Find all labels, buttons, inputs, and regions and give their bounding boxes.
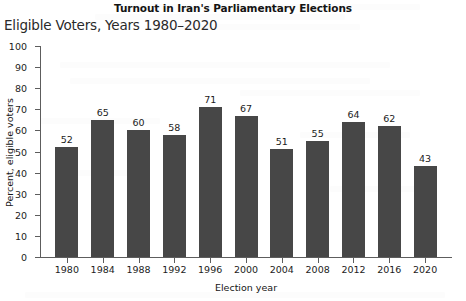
- y-axis-tick: 40: [35, 173, 40, 174]
- y-axis-tick-label: 60: [15, 125, 27, 136]
- bar-value-label: 60: [132, 117, 144, 128]
- x-axis-tick: [389, 258, 390, 263]
- x-axis-tick: [210, 258, 211, 263]
- bar: 711996: [199, 107, 222, 257]
- y-axis-tick-label: 40: [15, 167, 27, 178]
- y-axis-tick: 60: [35, 130, 40, 131]
- y-axis-tick: 0: [35, 257, 40, 258]
- x-axis-tick: [174, 258, 175, 263]
- y-axis-tick: 70: [35, 109, 40, 110]
- y-axis-tick: 80: [35, 88, 40, 89]
- bar: 672000: [235, 116, 258, 257]
- y-axis-tick: 50: [35, 152, 40, 153]
- bar-value-label: 51: [276, 136, 288, 147]
- x-axis-tick: [282, 258, 283, 263]
- y-axis-tick-label: 10: [15, 230, 27, 241]
- bar: 581992: [163, 135, 186, 257]
- y-axis-tick: 10: [35, 236, 40, 237]
- y-axis-title-label: Percent, eligible voters: [4, 98, 15, 207]
- x-axis-tick-label: 2012: [341, 264, 365, 275]
- x-axis-tick: [425, 258, 426, 263]
- bar-value-label: 43: [419, 153, 431, 164]
- bar: 651984: [91, 120, 114, 257]
- x-axis-tick-label: 1984: [91, 264, 115, 275]
- bar: 601988: [127, 130, 150, 257]
- bar-value-label: 55: [312, 128, 324, 139]
- bar-value-label: 58: [168, 122, 180, 133]
- bar-value-label: 62: [383, 113, 395, 124]
- x-axis-tick-label: 1980: [55, 264, 79, 275]
- y-axis-tick-label: 0: [21, 252, 27, 263]
- y-axis-tick-label: 30: [15, 188, 27, 199]
- bar: 432020: [414, 166, 437, 257]
- x-axis-tick: [67, 258, 68, 263]
- chart-title: Turnout in Iran's Parliamentary Election…: [0, 2, 466, 14]
- bar-value-label: 52: [61, 134, 73, 145]
- y-axis-tick: 90: [35, 67, 40, 68]
- chart-subtitle: Eligible Voters, Years 1980–2020: [4, 17, 217, 33]
- y-axis-tick-label: 50: [15, 146, 27, 157]
- bar: 512004: [270, 149, 293, 257]
- bar: 622016: [378, 126, 401, 257]
- y-axis-tick-label: 20: [15, 209, 27, 220]
- bar: 642012: [342, 122, 365, 257]
- x-axis-tick: [139, 258, 140, 263]
- bar-value-label: 64: [347, 109, 359, 120]
- x-axis-tick: [318, 258, 319, 263]
- y-axis-tick-label: 70: [15, 104, 27, 115]
- x-axis-tick: [353, 258, 354, 263]
- y-axis-tick: 20: [35, 215, 40, 216]
- x-axis-tick-label: 2020: [413, 264, 437, 275]
- x-axis-tick-label: 1988: [126, 264, 150, 275]
- x-axis-tick: [246, 258, 247, 263]
- x-axis-tick-label: 2000: [234, 264, 258, 275]
- x-axis-tick-label: 1992: [162, 264, 186, 275]
- x-axis-tick-label: 1996: [198, 264, 222, 275]
- bar-value-label: 67: [240, 103, 252, 114]
- bar: 521980: [55, 147, 78, 257]
- x-axis-tick-label: 2008: [306, 264, 330, 275]
- y-axis-tick: 30: [35, 194, 40, 195]
- bar-value-label: 65: [97, 107, 109, 118]
- bar-value-label: 71: [204, 94, 216, 105]
- y-axis-title: Percent, eligible voters: [2, 46, 16, 258]
- y-axis-tick-label: 90: [15, 62, 27, 73]
- y-axis-line: [40, 46, 41, 258]
- x-axis-tick-label: 2004: [270, 264, 294, 275]
- x-axis-tick: [103, 258, 104, 263]
- y-axis-tick-label: 80: [15, 83, 27, 94]
- bar: 552008: [306, 141, 329, 257]
- x-axis-tick-label: 2016: [377, 264, 401, 275]
- x-axis-title: Election year: [40, 282, 452, 293]
- plot-area: 0102030405060708090100 52198065198460198…: [40, 46, 452, 258]
- y-axis-tick: 100: [35, 46, 40, 47]
